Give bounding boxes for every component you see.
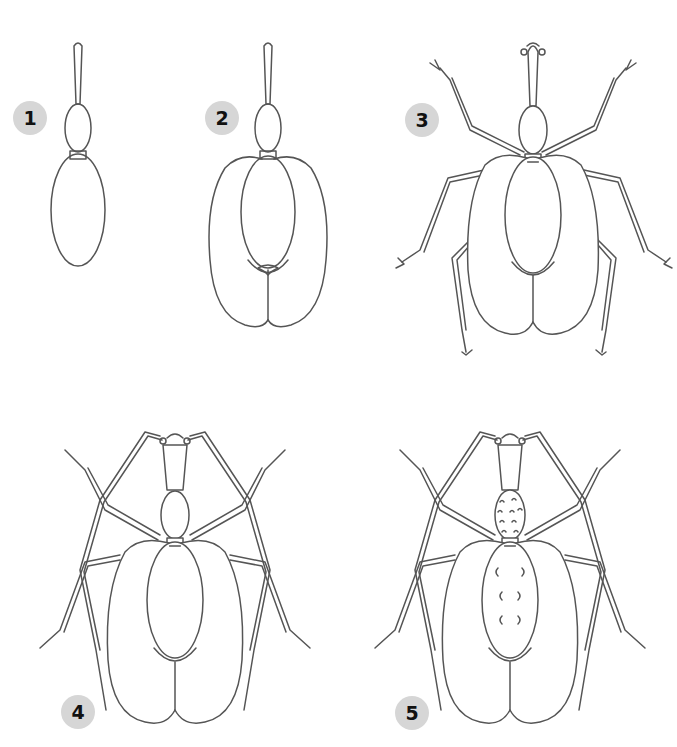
step-5-drawing [375, 432, 645, 723]
step-1-drawing [51, 43, 105, 266]
step-badge-1: 1 [13, 101, 47, 135]
step-badge-5: 5 [395, 696, 429, 730]
step-3-drawing [396, 43, 672, 355]
step-number: 2 [215, 107, 228, 129]
step-4-drawing [40, 432, 310, 723]
step-badge-3: 3 [405, 103, 439, 137]
step-2-drawing [209, 43, 327, 327]
step-badge-2: 2 [205, 101, 239, 135]
step-badge-4: 4 [61, 695, 95, 729]
step-number: 3 [415, 109, 428, 131]
beetle-illustrations [0, 0, 677, 747]
step-number: 5 [405, 702, 418, 724]
drawing-tutorial: 1 2 3 4 5 [0, 0, 677, 747]
step-number: 1 [23, 107, 36, 129]
step-number: 4 [71, 701, 84, 723]
